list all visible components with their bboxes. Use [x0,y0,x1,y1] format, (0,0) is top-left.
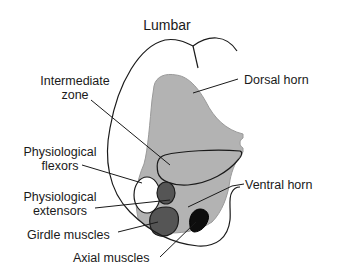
axial-nucleus [190,209,209,232]
label-physiological-extensors: Physiological extensors [18,190,102,218]
label-extensors-line1: Physiological [18,190,102,204]
diagram-title: Lumbar [139,18,195,32]
flexors-nucleus [134,177,160,213]
label-dorsal-horn: Dorsal horn [244,73,309,87]
label-axial-muscles: Axial muscles [73,251,149,265]
label-extensors-line2: extensors [18,204,102,218]
label-ventral-horn: Ventral horn [245,178,312,192]
label-flexors-line1: Physiological [18,145,102,159]
label-girdle-muscles: Girdle muscles [27,228,110,242]
dorsal-septum [193,46,198,68]
label-intermediate-zone: Intermediate zone [33,74,117,102]
label-flexors-line2: flexors [18,159,102,173]
label-intermediate-zone-line1: Intermediate [33,74,117,88]
label-physiological-flexors: Physiological flexors [18,145,102,173]
label-intermediate-zone-line2: zone [33,88,117,102]
